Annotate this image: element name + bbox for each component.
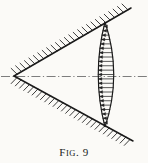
hatch-tick (32, 89, 38, 95)
hatch-tick (120, 137, 126, 143)
hatch-tick (104, 14, 110, 20)
hatch-tick (118, 7, 124, 13)
hatch-tick (70, 110, 76, 116)
caption-figure-number: 9 (83, 146, 89, 158)
hatch-tick (56, 43, 62, 49)
hatch-tick (66, 107, 72, 113)
caption-lead-letter: F (59, 146, 66, 158)
hatch-tick (113, 9, 119, 15)
hatch-tick (57, 103, 63, 109)
hatch-tick (24, 84, 30, 90)
hatch-tick (116, 135, 122, 141)
hatch-tick (38, 53, 44, 59)
hatch-tick (103, 128, 109, 134)
hatch-tick (20, 82, 26, 88)
hatch-tick (95, 123, 101, 129)
hatch-tick (49, 98, 55, 104)
figure-drawing (0, 0, 148, 163)
hatch-tick (95, 19, 101, 25)
hatch-tick (64, 37, 70, 43)
lower-wall-line (14, 76, 133, 141)
hatch-tick (87, 25, 93, 31)
hatch-tick (73, 32, 79, 38)
hatch-tick (69, 35, 75, 41)
caption-punctuation: . (76, 146, 83, 158)
hatch-tick (74, 112, 80, 118)
hatch-tick (11, 68, 17, 74)
hatch-tick (41, 94, 47, 100)
hatch-tick (61, 105, 67, 111)
hatch-tick (82, 27, 88, 33)
hatch-tick (24, 61, 30, 67)
wedge-walls-group (11, 4, 133, 145)
hatch-tick (82, 117, 88, 123)
figure-caption: FIG. 9 (0, 146, 148, 158)
figure-panel: FIG. 9 (0, 0, 148, 163)
hatch-tick (51, 45, 57, 51)
hatch-tick (33, 56, 39, 62)
velocity-arrow-field (98, 25, 114, 124)
hatch-tick (109, 12, 115, 18)
hatch-tick (124, 139, 130, 145)
caption-label-rest: IG (66, 148, 76, 158)
hatch-tick (122, 4, 128, 10)
hatch-tick (47, 48, 53, 54)
hatch-tick (87, 119, 93, 125)
hatch-tick (112, 133, 118, 139)
hatch-tick (28, 87, 34, 93)
hatch-tick (53, 100, 59, 106)
hatch-tick (78, 30, 84, 36)
hatch-tick (91, 121, 97, 127)
hatch-tick (78, 114, 84, 120)
hatch-tick (45, 96, 51, 102)
hatch-tick (99, 126, 105, 132)
hatch-tick (11, 78, 17, 84)
hatch-tick (42, 50, 48, 56)
hatch-tick (108, 130, 114, 136)
hatch-tick (100, 17, 106, 23)
upper-wall-hatching (11, 4, 128, 74)
hatch-tick (36, 91, 42, 97)
hatch-tick (15, 80, 21, 86)
hatch-tick (16, 66, 22, 72)
hatch-tick (20, 63, 26, 69)
hatch-tick (29, 58, 35, 64)
hatch-tick (91, 22, 97, 28)
hatch-tick (60, 40, 66, 46)
